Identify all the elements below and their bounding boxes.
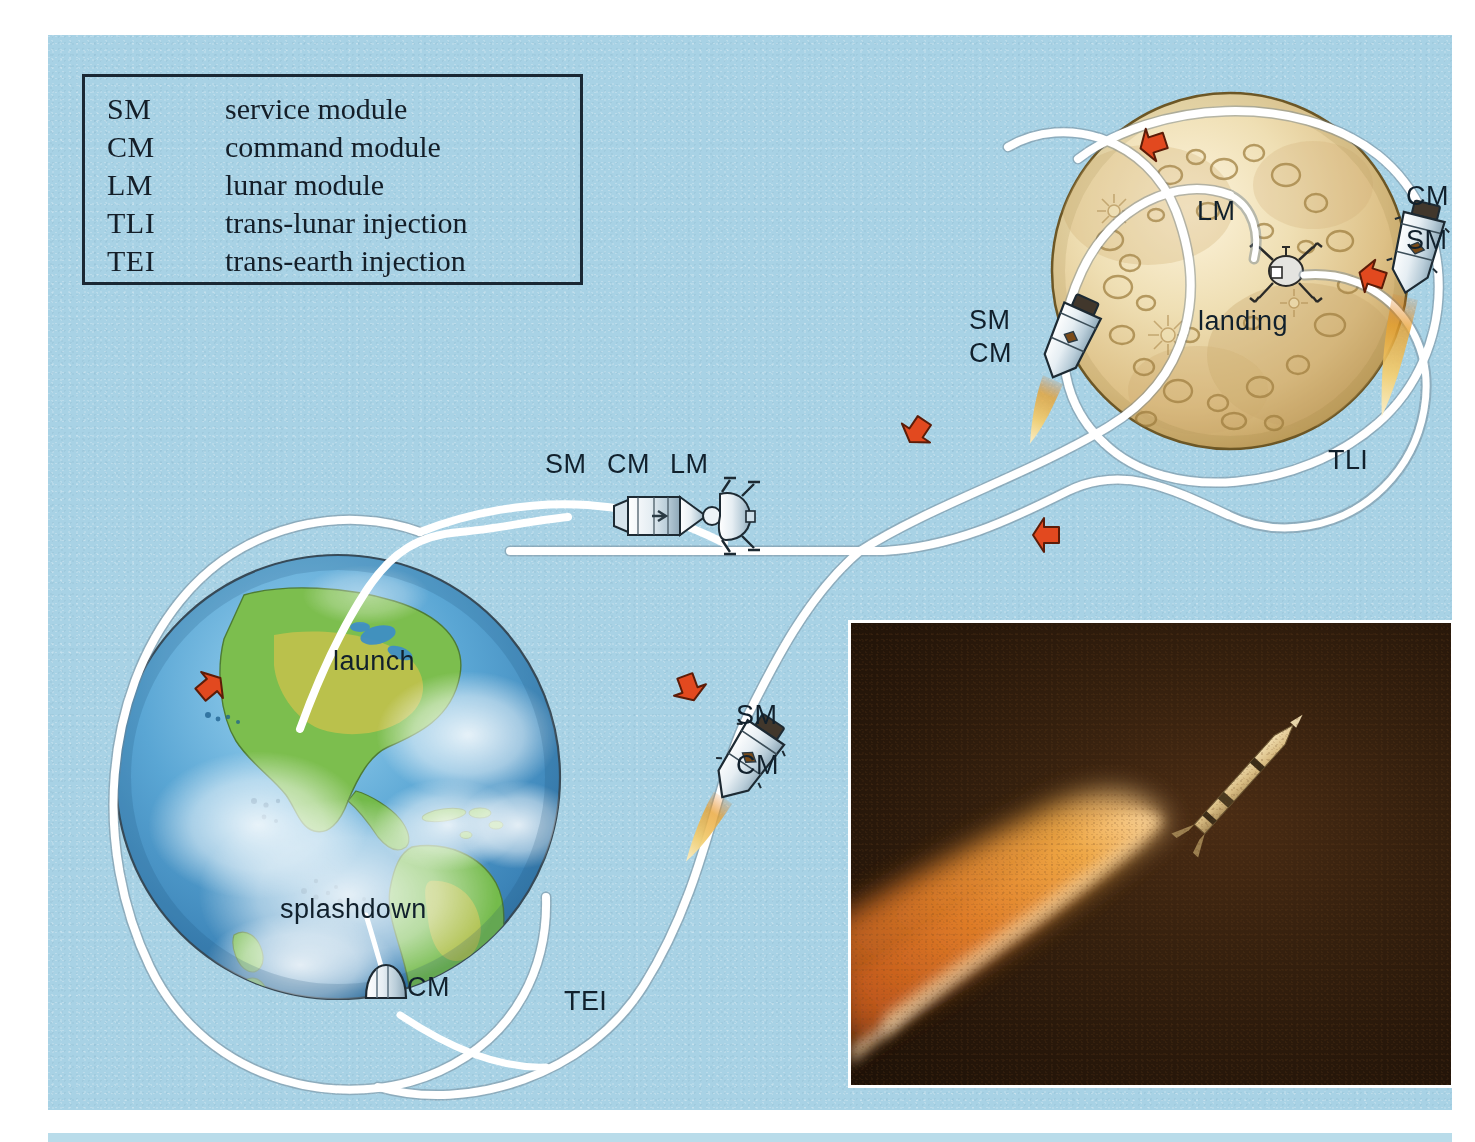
label-moon-cm: CM xyxy=(1406,181,1449,212)
label-moon-lm: LM xyxy=(1197,196,1235,227)
legend-row: LMlunar module xyxy=(107,166,467,204)
legend-row: TEItrans-earth injection xyxy=(107,242,467,280)
label-tli: TLI xyxy=(1328,445,1368,476)
label-earth-splashdown: splashdown xyxy=(280,894,427,925)
label-earth-cm: CM xyxy=(407,972,450,1003)
legend-abbr: SM xyxy=(107,90,225,128)
legend-definition: service module xyxy=(225,90,467,128)
diagram-page: LM landing CM SM TLI SM CM SM CM LM SM C… xyxy=(0,0,1475,1142)
label-tei-cm: CM xyxy=(736,750,779,781)
label-lunar-orbit-sm: SM xyxy=(969,305,1010,336)
label-cruise-sm: SM xyxy=(545,449,586,480)
label-tei: TEI xyxy=(564,986,607,1017)
legend-row: CMcommand module xyxy=(107,128,467,166)
legend-abbr: TEI xyxy=(107,242,225,280)
arrow-transearth-icon xyxy=(1033,518,1059,552)
reentry-path xyxy=(400,1015,546,1067)
label-moon-landing: landing xyxy=(1198,306,1288,337)
legend-box: SMservice moduleCMcommand moduleLMlunar … xyxy=(82,74,583,285)
legend-definition: lunar module xyxy=(225,166,467,204)
legend-abbr: TLI xyxy=(107,204,225,242)
legend-definition: trans-lunar injection xyxy=(225,204,467,242)
label-cruise-cm: CM xyxy=(607,449,650,480)
label-cruise-lm: LM xyxy=(670,449,708,480)
legend-abbr: CM xyxy=(107,128,225,166)
legend-abbr: LM xyxy=(107,166,225,204)
legend-definition: command module xyxy=(225,128,467,166)
label-lunar-orbit-cm: CM xyxy=(969,338,1012,369)
page-bottom-strip xyxy=(48,1133,1452,1142)
arrow-translunar-icon xyxy=(896,411,939,452)
arrow-outbound-icon xyxy=(669,670,710,706)
saturn-v-launch-photo xyxy=(848,620,1452,1088)
csm-lm-stack-icon xyxy=(614,478,760,554)
label-earth-launch: launch xyxy=(333,646,415,677)
label-moon-sm: SM xyxy=(1406,225,1447,256)
legend-row: SMservice module xyxy=(107,90,467,128)
photo-film-grain xyxy=(851,623,1451,1085)
legend-definition: trans-earth injection xyxy=(225,242,467,280)
label-tei-sm: SM xyxy=(736,700,777,731)
legend-table: SMservice moduleCMcommand moduleLMlunar … xyxy=(107,90,467,280)
legend-row: TLItrans-lunar injection xyxy=(107,204,467,242)
